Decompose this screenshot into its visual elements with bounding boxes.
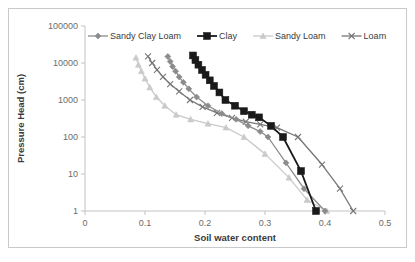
legend-item-sandy-clay-loam[interactable]: Sandy Clay Loam (88, 31, 181, 41)
x-tick-label: 0.1 (139, 218, 152, 228)
data-point-marker (135, 62, 141, 68)
data-point-marker (248, 111, 255, 118)
data-point-marker (256, 114, 263, 121)
x-axis-ticks: 00.10.20.30.40.5 (82, 211, 391, 228)
data-point-marker (222, 97, 229, 104)
data-point-marker (95, 33, 101, 39)
data-point-marker (268, 122, 275, 129)
data-point-marker (298, 168, 305, 175)
data-point-marker (280, 134, 287, 141)
data-point-marker (313, 208, 320, 215)
data-point-marker (245, 123, 251, 129)
chart-figure: 10000010000100010010100.10.20.30.40.5Soi… (0, 0, 415, 262)
data-point-marker (211, 83, 218, 90)
x-tick-label: 0.4 (319, 218, 332, 228)
x-tick-label: 0.2 (199, 218, 212, 228)
legend-label: Sandy Clay Loam (110, 31, 181, 41)
y-axis-ticks: 100000100001000100101 (48, 21, 85, 216)
data-point-marker (241, 108, 248, 115)
data-point-marker (204, 33, 211, 40)
series-line (168, 56, 325, 211)
chart-legend: Sandy Clay LoamClaySandy LoamLoam (88, 31, 386, 41)
soil-water-retention-chart: 10000010000100010010100.10.20.30.40.5Soi… (0, 0, 415, 262)
data-point-marker (142, 76, 148, 82)
x-axis-title: Soil water content (194, 232, 277, 243)
data-point-marker (147, 84, 153, 90)
x-tick-label: 0.3 (259, 218, 272, 228)
series-clay (190, 52, 320, 214)
data-point-marker (241, 134, 247, 140)
y-tick-label: 10 (68, 169, 78, 179)
y-axis-title: Pressure Head (cm) (15, 74, 26, 163)
legend-item-clay[interactable]: Clay (197, 31, 238, 41)
y-tick-label: 1 (73, 206, 78, 216)
legend-item-loam[interactable]: Loam (342, 31, 387, 41)
x-tick-label: 0 (82, 218, 87, 228)
data-point-marker (133, 55, 139, 61)
y-tick-label: 100 (63, 132, 78, 142)
series-sandy-clay-loam (165, 53, 328, 214)
data-point-marker (138, 68, 144, 74)
data-point-marker (233, 116, 239, 122)
x-tick-label: 0.5 (379, 218, 392, 228)
legend-label: Clay (219, 31, 238, 41)
legend-label: Loam (364, 31, 387, 41)
legend-item-sandy-loam[interactable]: Sandy Loam (253, 31, 326, 41)
y-tick-label: 100000 (48, 21, 78, 31)
y-tick-label: 10000 (53, 58, 78, 68)
data-point-marker (232, 102, 239, 109)
legend-label: Sandy Loam (275, 31, 326, 41)
y-tick-label: 1000 (58, 95, 78, 105)
data-point-marker (216, 89, 223, 96)
series-line (136, 58, 327, 211)
